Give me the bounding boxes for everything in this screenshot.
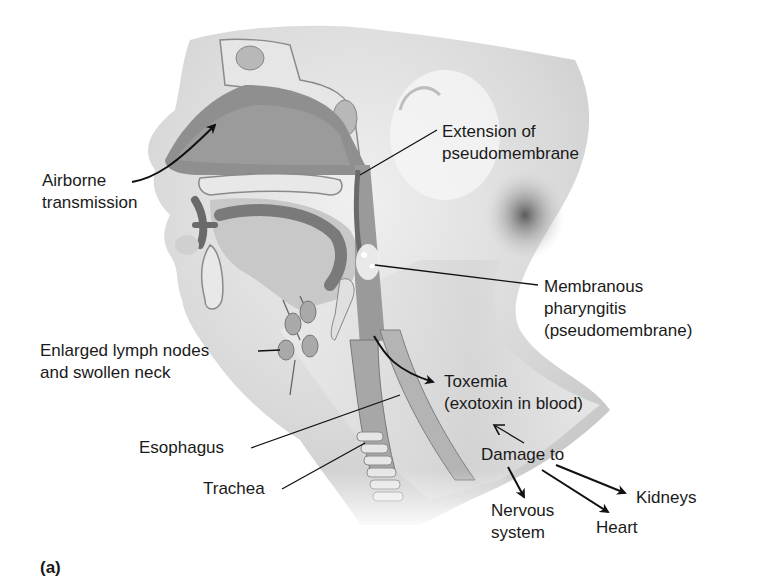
label-heart: Heart: [596, 517, 638, 539]
label-line: pseudomembrane: [442, 143, 579, 165]
label-airborne-transmission: Airborne transmission: [42, 170, 137, 214]
label-line: (pseudomembrane): [544, 320, 692, 342]
label-line: Toxemia: [444, 371, 583, 393]
label-kidneys: Kidneys: [636, 487, 696, 509]
label-nervous-system: Nervous system: [491, 500, 554, 544]
label-toxemia: Toxemia (exotoxin in blood): [444, 371, 583, 415]
label-damage-to: Damage to: [481, 444, 564, 466]
label-line: Esophagus: [139, 437, 224, 459]
label-line: Membranous: [544, 276, 692, 298]
label-line: Enlarged lymph nodes: [40, 340, 209, 362]
hard-palate: [199, 174, 342, 195]
label-line: Extension of: [442, 121, 579, 143]
label-line: Kidneys: [636, 487, 696, 509]
label-extension-of-pseudomembrane: Extension of pseudomembrane: [442, 121, 579, 165]
label-line: Damage to: [481, 444, 564, 466]
label-line: and swollen neck: [40, 362, 209, 384]
panel-label: (a): [40, 558, 61, 578]
label-line: system: [491, 522, 554, 544]
label-esophagus: Esophagus: [139, 437, 224, 459]
label-line: Trachea: [203, 478, 265, 500]
label-membranous-pharyngitis: Membranous pharyngitis (pseudomembrane): [544, 276, 692, 342]
label-line: transmission: [42, 192, 137, 214]
label-line: Nervous: [491, 500, 554, 522]
label-line: (exotoxin in blood): [444, 393, 583, 415]
label-line: Heart: [596, 517, 638, 539]
label-line: Airborne: [42, 170, 137, 192]
label-trachea: Trachea: [203, 478, 265, 500]
label-enlarged-lymph-nodes: Enlarged lymph nodes and swollen neck: [40, 340, 209, 384]
label-line: pharyngitis: [544, 298, 692, 320]
